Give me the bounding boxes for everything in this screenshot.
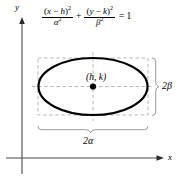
vertical-extent-bracket xyxy=(153,58,159,115)
center-point-dot xyxy=(90,83,96,89)
horizontal-extent-label: 2α xyxy=(83,135,93,146)
center-point-label: (h, k) xyxy=(86,72,106,82)
vertical-extent-label: 2β xyxy=(162,80,172,91)
equation-plus-operator: + xyxy=(76,12,81,22)
equation-first-fraction: (x − h)2 α2 xyxy=(42,7,73,27)
y-axis-label: y xyxy=(15,2,19,12)
equation-equals-sign: = xyxy=(119,12,124,22)
horizontal-extent-bracket xyxy=(38,127,148,133)
equation-right-hand-side: 1 xyxy=(126,12,131,22)
ellipse-figure: (x − h)2 α2 + (y − k)2 β2 = 1 y x (h, k)… xyxy=(0,0,182,178)
equation-first-denominator: α2 xyxy=(42,17,73,28)
ellipse-equation: (x − h)2 α2 + (y − k)2 β2 = 1 xyxy=(41,7,133,27)
y-axis-arrowhead xyxy=(19,17,25,24)
equation-second-denominator: β2 xyxy=(84,17,115,28)
equation-second-fraction: (y − k)2 β2 xyxy=(84,7,115,27)
x-axis-label: x xyxy=(168,152,172,162)
x-axis-arrowhead xyxy=(157,155,165,161)
